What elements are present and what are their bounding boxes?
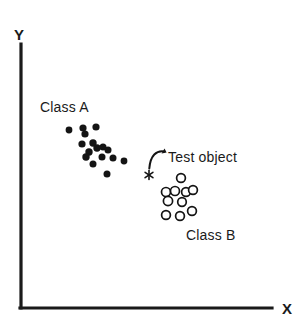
class-b-point: [178, 198, 187, 207]
class-a-point: [81, 130, 88, 137]
class-b-point: [162, 188, 171, 197]
test-object-marker: [145, 171, 153, 180]
test-object-pointer: [149, 148, 166, 168]
class-a-point: [78, 140, 85, 147]
class-a-point: [82, 153, 89, 160]
class-a-point: [93, 144, 100, 151]
class-a-point: [66, 127, 73, 134]
axes-group: [20, 44, 272, 308]
class-b-point: [177, 174, 186, 183]
class-a-point: [92, 123, 99, 130]
class-b-point: [188, 207, 197, 216]
class-b-point: [189, 186, 198, 195]
class-a-point: [104, 171, 111, 178]
test-object-label: Test object: [168, 149, 237, 165]
class-a-cluster: [66, 123, 128, 177]
class-a-point: [99, 154, 106, 161]
plot-canvas: Y X: [0, 0, 307, 335]
class-a-point: [90, 161, 97, 168]
class-b-cluster: [162, 174, 198, 221]
class-b-point: [176, 212, 185, 221]
y-axis-label: Y: [14, 26, 24, 43]
scatter-plot-figure: Y X: [0, 0, 307, 335]
class-b-point: [162, 211, 171, 220]
class-a-point: [110, 155, 117, 162]
class-b-label: Class B: [186, 227, 236, 243]
class-a-point: [121, 158, 128, 165]
x-axis-label: X: [282, 300, 292, 317]
class-b-point: [171, 187, 180, 196]
class-b-point: [163, 196, 172, 205]
class-a-label: Class A: [40, 99, 89, 115]
arrow-curve-path: [149, 151, 164, 168]
class-a-point: [105, 147, 112, 154]
